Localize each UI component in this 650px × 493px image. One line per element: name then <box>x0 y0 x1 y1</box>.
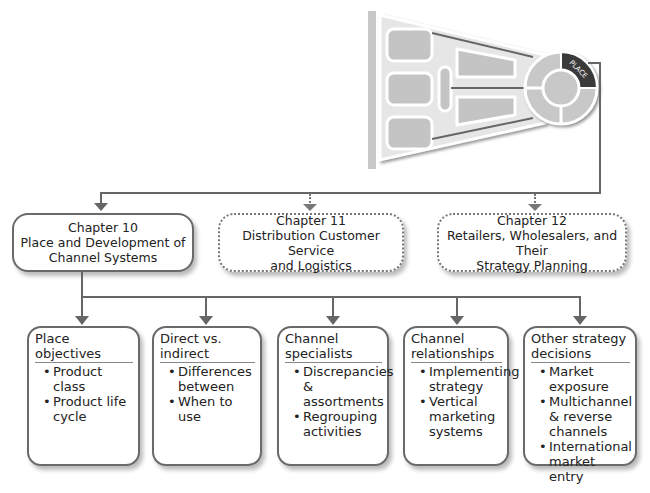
bullet-item: Product class <box>53 364 133 394</box>
chapter-number: Chapter 11 <box>220 213 402 228</box>
chapter-11-box: Chapter 11 Distribution Customer Service… <box>218 213 404 272</box>
chapter-number: Chapter 12 <box>439 213 625 228</box>
arrow-down-icon <box>573 316 587 325</box>
bullet-item: Implementing strategy <box>429 364 502 394</box>
chapter-title: Strategy Planning <box>439 258 625 273</box>
connector <box>456 296 458 318</box>
topic-title: Placeobjectives <box>35 331 133 363</box>
chapter-10-box: Chapter 10 Place and Development of Chan… <box>12 213 194 272</box>
bullet-list: Implementing strategy Vertical marketing… <box>411 364 502 439</box>
bullet-item: International market entry <box>549 439 630 484</box>
bullet-list: Differences between When to use <box>160 364 255 424</box>
chapter-12-box: Chapter 12 Retailers, Wholesalers, and T… <box>437 213 627 272</box>
connector <box>100 192 601 194</box>
bullet-list: Discrepancies & assortments Regrouping a… <box>285 364 382 439</box>
chapter-title: and Logistics <box>220 258 402 273</box>
arrow-down-icon <box>326 316 340 325</box>
chapter-number: Chapter 10 <box>14 220 192 235</box>
topic-box: Other strategydecisions Market exposure … <box>523 326 637 466</box>
bullet-item: Discrepancies & assortments <box>303 364 382 409</box>
connector <box>81 296 581 298</box>
chapter-title: Channel Systems <box>14 250 192 265</box>
marketing-mix-graphic: PLACE <box>365 5 605 170</box>
topic-title-line: Direct vs. <box>160 331 255 346</box>
topic-box: Direct vs.indirect Differences between W… <box>152 326 262 466</box>
arrow-down-icon <box>94 203 108 211</box>
bullet-item: Vertical marketing systems <box>429 394 502 439</box>
arrow-down-icon <box>303 204 317 211</box>
connector <box>205 296 207 318</box>
chapter-title: Distribution Customer Service <box>220 228 402 258</box>
bullet-item: Differences between <box>178 364 255 394</box>
topic-title-line: Channel <box>285 331 382 346</box>
arrow-down-icon <box>528 204 542 211</box>
bullet-item: Regrouping activities <box>303 409 382 439</box>
topic-title-line: indirect <box>160 346 255 361</box>
topic-title-line: relationships <box>411 346 502 361</box>
bullet-list: Product class Product life cycle <box>35 364 133 424</box>
bullet-item: Market exposure <box>549 364 630 394</box>
connector <box>332 296 334 318</box>
topic-title-line: Channel <box>411 331 502 346</box>
bullet-list: Market exposure Multichannel & reverse c… <box>531 364 630 484</box>
topic-title: Channelspecialists <box>285 331 382 363</box>
topic-title-line: Place <box>35 331 133 346</box>
topic-title-line: objectives <box>35 346 133 361</box>
topic-title: Direct vs.indirect <box>160 331 255 363</box>
arrow-down-icon <box>75 316 89 325</box>
connector <box>81 271 83 297</box>
bullet-item: Product life cycle <box>53 394 133 424</box>
connector <box>599 62 601 194</box>
connector <box>579 296 581 318</box>
topic-box: Channelspecialists Discrepancies & assor… <box>277 326 389 466</box>
topic-title: Other strategydecisions <box>531 331 630 363</box>
topic-box: Placeobjectives Product class Product li… <box>27 326 140 466</box>
topic-title: Channelrelationships <box>411 331 502 363</box>
connector <box>81 296 83 318</box>
topic-title-line: specialists <box>285 346 382 361</box>
bullet-item: When to use <box>178 394 255 424</box>
chapter-title: Place and Development of <box>14 235 192 250</box>
topic-box: Channelrelationships Implementing strate… <box>403 326 509 466</box>
topic-title-line: decisions <box>531 346 630 361</box>
chapter-title: Retailers, Wholesalers, and Their <box>439 228 625 258</box>
arrow-down-icon <box>199 316 213 325</box>
topic-title-line: Other strategy <box>531 331 630 346</box>
bullet-item: Multichannel & reverse channels <box>549 394 630 439</box>
arrow-down-icon <box>450 316 464 325</box>
